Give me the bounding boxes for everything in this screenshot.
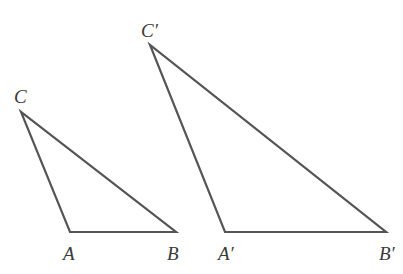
vertex-label-c-prime: C′ (141, 21, 158, 40)
vertex-label-b-prime: B′ (379, 244, 395, 263)
triangles-figure (0, 0, 403, 274)
triangle-a-prime-b-prime-c-prime (150, 45, 386, 232)
triangle-abc (21, 112, 176, 232)
vertex-label-a: A (63, 244, 75, 263)
vertex-label-a-prime: A′ (218, 244, 234, 263)
similar-triangles-diagram: C A B C′ A′ B′ (0, 0, 403, 274)
vertex-label-b: B (167, 244, 179, 263)
vertex-label-c: C (14, 87, 27, 106)
